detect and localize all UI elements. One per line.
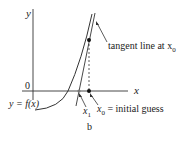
tangent-label-text: tangent line at x [108,40,172,51]
origin-label: 0 [25,81,30,91]
tangent-label-sub: 0 [172,46,176,54]
curve-f [35,14,92,110]
x1-label-sub: 1 [87,111,91,119]
x0-desc-text: = initial guess [105,103,164,114]
x-axis-label: x [134,85,139,96]
x0-initial-guess-label: x0 = initial guess [97,104,164,117]
tangent-pointer-arrow [97,23,107,42]
x1-arrowhead-icon [79,93,82,97]
x0-arrowhead-icon [90,93,93,97]
y-axis-label: y [26,8,31,19]
x1-label: x1 [83,106,91,119]
newton-method-diagram: y x 0 y = f(x) tangent line at x0 x1 x0 … [0,0,183,150]
figure-caption: b [87,122,92,132]
point-x1 [77,89,80,92]
tangent-line-label: tangent line at x0 [108,41,176,54]
curve-label: y = f(x) [9,99,39,109]
point-on-curve [87,38,91,42]
tangent-arrowhead-icon [96,21,99,25]
point-x0 [87,89,91,93]
